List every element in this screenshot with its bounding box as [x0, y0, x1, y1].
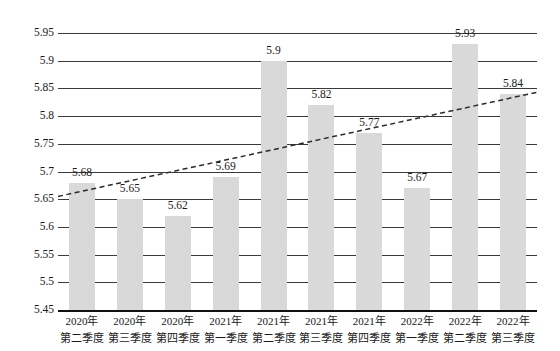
- y-axis-tick-label: 5.9: [0, 55, 54, 67]
- bar-value-label: 5.69: [202, 161, 250, 173]
- y-axis-tick-label: 5.95: [0, 27, 54, 39]
- x-axis-category-label: 2022年第三季度: [483, 313, 543, 346]
- gridline: [58, 310, 537, 312]
- bar-value-label: 5.9: [250, 45, 298, 57]
- bar: [500, 94, 526, 310]
- bar: [452, 44, 478, 310]
- y-axis-tick-label: 5.85: [0, 82, 54, 94]
- bar-value-label: 5.93: [441, 28, 489, 40]
- y-axis-tick-label: 5.6: [0, 221, 54, 233]
- bar-value-label: 5.82: [297, 89, 345, 101]
- bar-value-label: 5.67: [393, 172, 441, 184]
- y-axis-tick-label: 5.45: [0, 304, 54, 316]
- bar: [404, 188, 430, 310]
- x-axis-category-labels: 2020年第二季度2020年第三季度2020年第四季度2021年第一季度2021…: [58, 313, 537, 351]
- bar: [308, 105, 334, 310]
- bar: [261, 61, 287, 310]
- y-axis-tick-label: 5.7: [0, 166, 54, 178]
- bar: [213, 177, 239, 310]
- bar-chart: 5.955.95.855.85.755.75.655.65.555.55.45 …: [0, 0, 560, 351]
- bar: [117, 199, 143, 310]
- bar: [69, 183, 95, 310]
- bar: [356, 133, 382, 310]
- y-axis-tick-label: 5.8: [0, 110, 54, 122]
- bar-value-label: 5.62: [154, 200, 202, 212]
- bar-value-label: 5.77: [345, 117, 393, 129]
- bar: [165, 216, 191, 310]
- plot-area: 5.685.655.625.695.95.825.775.675.935.84: [58, 33, 537, 310]
- y-axis-tick-label: 5.75: [0, 138, 54, 150]
- y-axis-tick-label: 5.65: [0, 193, 54, 205]
- bar-value-label: 5.68: [58, 167, 106, 179]
- y-axis-tick-label: 5.55: [0, 249, 54, 261]
- bar-value-label: 5.65: [106, 183, 154, 195]
- bar-value-label: 5.84: [489, 78, 537, 90]
- y-axis-tick-label: 5.5: [0, 276, 54, 288]
